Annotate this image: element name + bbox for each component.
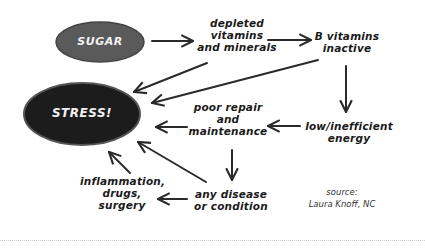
sugar-node-label: SUGAR [56,35,144,48]
bottom-divider [0,240,425,241]
node-b-vitamins-inactive: B vitamins inactive [312,30,382,54]
node-any-disease: any disease or condition [188,188,274,212]
node-poor-repair: poor repair and maintenance [186,101,270,137]
node-depleted-vitamins: depleted vitamins and minerals [196,17,278,53]
stress-node-label: STRESS! [24,106,140,120]
node-inflammation: inflammation, drugs, surgery [80,175,164,211]
arrow-inflammation-to-stress [109,152,130,173]
arrow-depleted-to-stress [134,63,207,92]
source-credit: source: Laura Knoff, NC [292,186,392,210]
arrow-b-vitamins-to-stress [152,60,318,103]
node-low-inefficient-energy: low/inefficient energy [303,120,395,144]
